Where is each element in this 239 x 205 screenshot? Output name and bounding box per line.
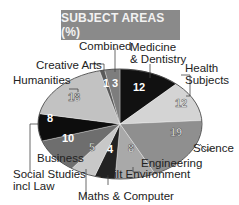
label-health-line2: Subjects	[185, 74, 229, 86]
label-business: Business	[37, 152, 84, 164]
value-creative-arts: 1	[103, 77, 109, 89]
pie-chart: Combined Medicine & Dentistry Creative A…	[0, 0, 239, 205]
label-health-line1: Health	[185, 62, 218, 74]
value-science: 19	[170, 126, 182, 138]
value-maths: 5	[89, 141, 95, 153]
value-combined: 3	[112, 77, 118, 89]
label-humanities: Humanities	[13, 74, 71, 86]
label-medicine-line1: Medicine	[130, 41, 176, 53]
value-business: 10	[62, 132, 74, 144]
value-health: 12	[175, 97, 187, 109]
label-science: Science	[193, 142, 234, 154]
label-built-environment: Built Environment	[100, 168, 191, 180]
label-social-line1: Social Studies	[13, 168, 86, 180]
value-engineering: 8	[128, 142, 134, 154]
value-social: 8	[47, 112, 53, 124]
label-social-line2: incl Law	[13, 180, 55, 192]
value-built-environment: 4	[107, 143, 114, 155]
label-maths-computer: Maths & Computer	[78, 190, 174, 202]
label-combined: Combined	[79, 40, 131, 52]
value-medicine: 12	[133, 81, 145, 93]
value-humanities: 18	[68, 91, 80, 103]
label-creative-arts: Creative Arts	[36, 59, 102, 71]
label-medicine-line2: & Dentistry	[130, 53, 186, 65]
